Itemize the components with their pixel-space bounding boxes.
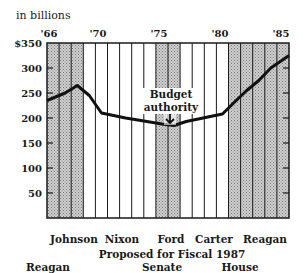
proposed-fiscal-1987-heading: Proposed for Fiscal 1987	[99, 248, 246, 260]
proposed-senate: Senate	[142, 261, 182, 273]
down-arrow-icon	[164, 114, 176, 125]
annotation-line-1: Budget	[144, 88, 198, 101]
budget-authority-annotation: Budget authority	[143, 88, 199, 114]
president-ford: Ford	[158, 233, 185, 245]
proposed-reagan: Reagan	[26, 261, 70, 273]
president-nixon: Nixon	[105, 233, 139, 245]
president-carter: Carter	[195, 233, 233, 245]
president-johnson: Johnson	[50, 233, 98, 245]
annotation-line-2: authority	[144, 101, 198, 114]
president-reagan: Reagan	[243, 233, 287, 245]
proposed-house: House	[221, 261, 258, 273]
